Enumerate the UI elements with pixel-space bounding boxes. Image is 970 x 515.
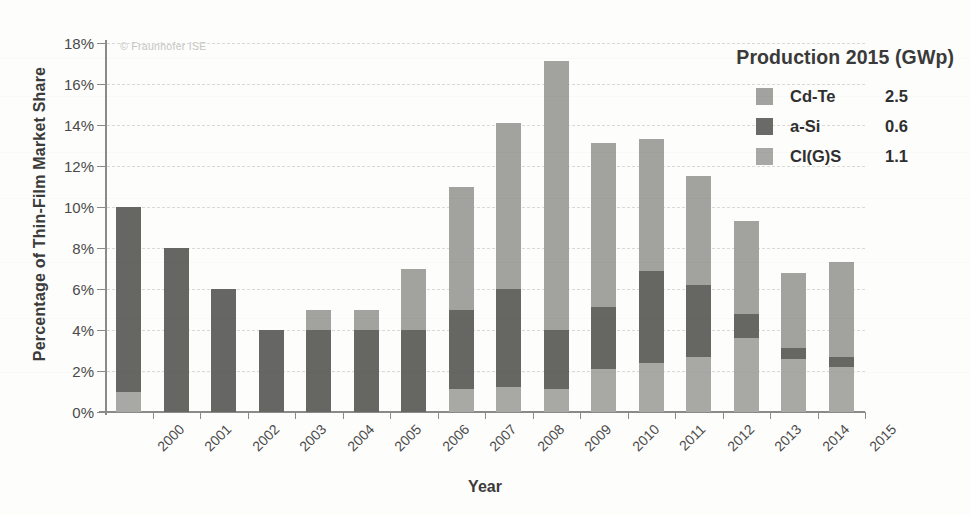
x-tick-label: 2000 [154, 421, 187, 454]
bar-segment-asi [164, 248, 189, 412]
bar-segment-cdte [781, 273, 806, 349]
x-tick-label: 2004 [344, 421, 377, 454]
bar-segment-cigs [734, 338, 759, 412]
bar-stack [829, 262, 854, 412]
bar-stack [686, 176, 711, 412]
x-tick-mark [248, 412, 249, 419]
x-tick-mark [770, 412, 771, 419]
legend-series-value: 1.1 [868, 147, 908, 166]
y-tick-label: 0% [72, 404, 94, 421]
bar-segment-asi [116, 207, 141, 392]
y-tick-label: 16% [64, 76, 94, 93]
x-tick-mark [628, 412, 629, 419]
x-tick-label: 2001 [201, 421, 234, 454]
x-tick-mark [343, 412, 344, 419]
bar-stack [496, 123, 521, 412]
legend-series-name: a-Si [790, 117, 868, 136]
bar-segment-cigs [544, 389, 569, 412]
legend-entries: Cd-Te2.5a-Si0.6CI(G)S1.1 [640, 81, 960, 171]
x-tick-label: 2015 [866, 421, 899, 454]
legend-swatch-asi [756, 118, 773, 135]
x-tick-mark [865, 412, 866, 419]
bar-segment-cigs [781, 359, 806, 412]
bar-segment-cdte [306, 310, 331, 331]
y-axis-title: Percentage of Thin-Film Market Share [31, 14, 49, 414]
bar-segment-asi [354, 330, 379, 412]
bar-segment-asi [781, 348, 806, 358]
thin-film-market-share-chart: © Fraunhofer ISE Percentage of Thin-Film… [0, 0, 970, 515]
y-tick-label: 14% [64, 117, 94, 134]
x-tick-mark [533, 412, 534, 419]
scan-artifact [0, 152, 970, 153]
bar-stack [164, 248, 189, 412]
scan-artifact [0, 96, 970, 97]
bar-segment-asi [686, 285, 711, 357]
legend-row: CI(G)S1.1 [640, 141, 960, 171]
x-tick-label: 2014 [819, 421, 852, 454]
bar-segment-cigs [639, 363, 664, 412]
bar-segment-cdte [354, 310, 379, 331]
y-tick-label: 18% [64, 35, 94, 52]
x-tick-label: 2005 [391, 421, 424, 454]
bar-stack [401, 269, 426, 413]
bar-segment-cdte [496, 123, 521, 289]
y-tick-label: 6% [72, 281, 94, 298]
x-tick-mark [390, 412, 391, 419]
legend-series-name: CI(G)S [790, 147, 868, 166]
bar-segment-cigs [449, 389, 474, 412]
y-tick-label: 12% [64, 158, 94, 175]
bar-segment-asi [639, 271, 664, 363]
scan-artifact [0, 58, 970, 59]
y-tick-label: 4% [72, 322, 94, 339]
y-tick-label: 2% [72, 363, 94, 380]
bar-segment-cdte [544, 61, 569, 330]
x-tick-label: 2003 [296, 421, 329, 454]
y-tick-label: 8% [72, 240, 94, 257]
bar-segment-asi [829, 357, 854, 367]
bar-segment-cigs [686, 357, 711, 412]
x-tick-mark [723, 412, 724, 419]
x-tick-mark [200, 412, 201, 419]
x-tick-label: 2009 [581, 421, 614, 454]
bar-segment-cdte [734, 221, 759, 313]
bar-stack [781, 273, 806, 412]
scan-artifact [0, 262, 970, 263]
scan-artifact [0, 198, 970, 199]
bar-stack [306, 310, 331, 413]
x-tick-mark [675, 412, 676, 419]
bar-stack [116, 207, 141, 412]
x-tick-label: 2006 [439, 421, 472, 454]
legend-swatch-cigs [756, 148, 773, 165]
bar-segment-asi [449, 310, 474, 390]
bar-segment-asi [259, 330, 284, 412]
bar-stack [211, 289, 236, 412]
x-tick-mark [485, 412, 486, 419]
scan-artifact [0, 318, 970, 319]
x-tick-label: 2010 [629, 421, 662, 454]
x-tick-label: 2012 [724, 421, 757, 454]
x-tick-mark [580, 412, 581, 419]
bar-segment-cdte [449, 187, 474, 310]
x-tick-label: 2002 [249, 421, 282, 454]
bar-segment-cigs [496, 387, 521, 412]
bar-segment-cdte [829, 262, 854, 356]
bar-segment-asi [306, 330, 331, 412]
bar-stack [354, 310, 379, 413]
y-tick-mark [97, 412, 106, 413]
bar-stack [734, 221, 759, 412]
legend-row: a-Si0.6 [640, 111, 960, 141]
bar-stack [544, 61, 569, 412]
bar-segment-cigs [116, 392, 141, 413]
x-tick-mark [153, 412, 154, 419]
bar-segment-cigs [829, 367, 854, 412]
x-tick-label: 2011 [676, 421, 709, 454]
x-tick-label: 2008 [534, 421, 567, 454]
bar-stack [259, 330, 284, 412]
bar-segment-cdte [401, 269, 426, 331]
bar-stack [449, 187, 474, 413]
scan-artifact [0, 372, 970, 373]
x-tick-label: 2013 [771, 421, 804, 454]
x-tick-label: 2007 [486, 421, 519, 454]
x-tick-mark [295, 412, 296, 419]
x-tick-mark [818, 412, 819, 419]
